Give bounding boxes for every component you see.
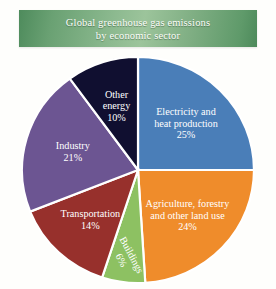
- pie-slice-name-line: Agriculture, forestry: [146, 198, 231, 209]
- pie-slice-name-line: and other land use: [150, 210, 225, 221]
- pie-slice-percent: 25%: [177, 129, 196, 140]
- chart-title-line-2: by economic sector: [96, 29, 180, 42]
- pie-slice-percent: 14%: [81, 220, 100, 231]
- pie-slice-name-line: Electricity and: [156, 106, 216, 117]
- pie-slice-name-line: energy: [103, 100, 131, 111]
- pie-chart: Electricity andheat production25%Agricul…: [21, 56, 255, 284]
- pie-slice-name-line: Industry: [56, 140, 91, 151]
- pie-slice-name-line: Transportation: [61, 208, 121, 219]
- chart-title-banner: Global greenhouse gas emissions by econo…: [19, 10, 257, 47]
- pie-slice-name-line: Other: [105, 89, 129, 100]
- pie-chart-svg: Electricity andheat production25%Agricul…: [21, 56, 255, 284]
- pie-slices: [22, 57, 254, 283]
- pie-slice-percent: 10%: [107, 112, 126, 123]
- chart-title-line-1: Global greenhouse gas emissions: [66, 16, 210, 29]
- pie-slice-percent: 24%: [178, 221, 197, 232]
- pie-slice-percent: 21%: [63, 152, 82, 163]
- chart-figure: Global greenhouse gas emissions by econo…: [0, 0, 276, 289]
- pie-slice-name-line: heat production: [154, 118, 218, 129]
